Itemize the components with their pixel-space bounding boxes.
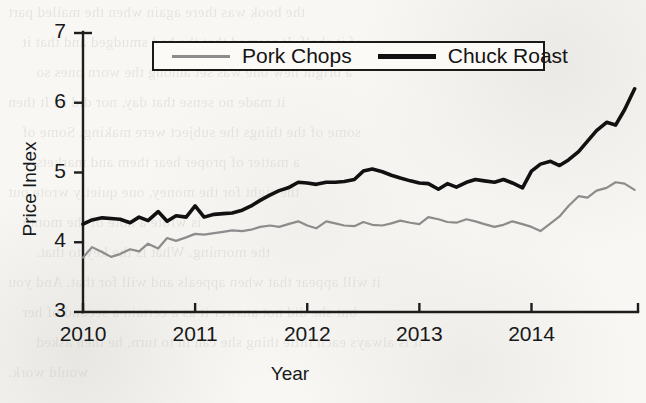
legend-label-chuck-roast: Chuck Roast xyxy=(448,44,568,68)
y-axis-tick-label: 3 xyxy=(40,298,66,322)
y-axis-tick-label: 6 xyxy=(40,89,66,113)
x-axis-tick-label: 2011 xyxy=(160,322,230,346)
x-axis-tick-label: 2012 xyxy=(272,322,342,346)
legend-item-pork-chops: Pork Chops xyxy=(172,43,352,69)
legend-item-chuck-roast: Chuck Roast xyxy=(378,43,568,69)
chart-legend: Pork Chops Chuck Roast xyxy=(152,41,545,71)
legend-line-swatch-pork-chops xyxy=(172,55,230,58)
series-line-chuck-roast xyxy=(83,89,635,224)
y-axis-tick-label: 4 xyxy=(40,228,66,252)
x-axis-tick-label: 2013 xyxy=(384,322,454,346)
y-axis-tick-label: 5 xyxy=(40,159,66,183)
y-axis-tick-label: 7 xyxy=(40,19,66,43)
x-axis-tick-label: 2010 xyxy=(48,322,118,346)
x-axis-tick-label: 2014 xyxy=(496,322,566,346)
x-axis-title: Year xyxy=(0,363,580,385)
y-axis-title: Price Index xyxy=(19,109,41,269)
legend-line-swatch-chuck-roast xyxy=(378,54,436,59)
legend-label-pork-chops: Pork Chops xyxy=(242,44,352,68)
scanned-page: the book was there again when the mailed… xyxy=(0,0,646,403)
